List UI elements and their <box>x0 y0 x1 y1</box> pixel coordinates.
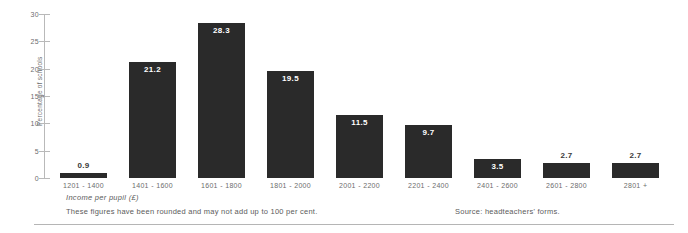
bar-group[interactable]: 2.72801 + <box>612 163 659 178</box>
bottom-divider <box>34 224 674 225</box>
x-axis-category-label: 2801 + <box>624 182 648 189</box>
x-axis-category-label: 1201 - 1400 <box>63 182 104 189</box>
bar-group[interactable]: 11.52001 - 2200 <box>336 115 383 178</box>
bar-group[interactable]: 9.72201 - 2400 <box>405 125 452 178</box>
bar-group[interactable]: 28.31601 - 1800 <box>198 23 245 178</box>
x-axis-category-label: 1801 - 2000 <box>270 182 311 189</box>
bar-group[interactable]: 0.91201 - 1400 <box>60 173 107 178</box>
bar[interactable]: 11.5 <box>336 115 383 178</box>
bar[interactable]: 9.7 <box>405 125 452 178</box>
y-axis-tick-label: 5 <box>35 147 39 154</box>
bar-group[interactable]: 19.51801 - 2000 <box>267 71 314 178</box>
bar[interactable]: 2.7 <box>543 163 590 178</box>
chart-source-note: Source: headteachers' forms. <box>455 207 560 216</box>
bar[interactable]: 3.5 <box>474 159 521 178</box>
y-axis-tick-label: 25 <box>31 38 39 45</box>
x-axis-category-label: 1401 - 1600 <box>132 182 173 189</box>
bar-value-label: 11.5 <box>336 118 383 127</box>
x-axis-category-label: 2601 - 2800 <box>546 182 587 189</box>
y-axis-title: Percentage of schools <box>36 56 43 126</box>
y-axis-tick <box>39 178 50 179</box>
x-axis-category-label: 2001 - 2200 <box>339 182 380 189</box>
x-axis-title: Income per pupil (£) <box>66 193 139 202</box>
chart-footnote: These figures have been rounded and may … <box>66 207 318 216</box>
bar-value-label: 2.7 <box>543 151 590 160</box>
bar-value-label: 2.7 <box>612 151 659 160</box>
bar-chart-figure: 051015202530 Percentage of schools 0.912… <box>0 0 688 233</box>
plot-area: 051015202530 Percentage of schools 0.912… <box>44 14 666 178</box>
y-axis-tick-label: 0 <box>35 175 39 182</box>
bar-value-label: 19.5 <box>267 74 314 83</box>
bar-series: 0.91201 - 140021.21401 - 160028.31601 - … <box>45 14 666 178</box>
x-axis-category-label: 2401 - 2600 <box>477 182 518 189</box>
bar[interactable]: 0.9 <box>60 173 107 178</box>
y-axis-tick-label: 30 <box>31 11 39 18</box>
bar[interactable]: 19.5 <box>267 71 314 178</box>
bar-group[interactable]: 2.72601 - 2800 <box>543 163 590 178</box>
x-axis-category-label: 1601 - 1800 <box>201 182 242 189</box>
bar-value-label: 9.7 <box>405 128 452 137</box>
bar-group[interactable]: 3.52401 - 2600 <box>474 159 521 178</box>
bar[interactable]: 2.7 <box>612 163 659 178</box>
bar-value-label: 28.3 <box>198 26 245 35</box>
bar-value-label: 21.2 <box>129 65 176 74</box>
x-axis-category-label: 2201 - 2400 <box>408 182 449 189</box>
bar-value-label: 3.5 <box>474 162 521 171</box>
bar-value-label: 0.9 <box>60 161 107 170</box>
bar[interactable]: 28.3 <box>198 23 245 178</box>
bar[interactable]: 21.2 <box>129 62 176 178</box>
bar-group[interactable]: 21.21401 - 1600 <box>129 62 176 178</box>
